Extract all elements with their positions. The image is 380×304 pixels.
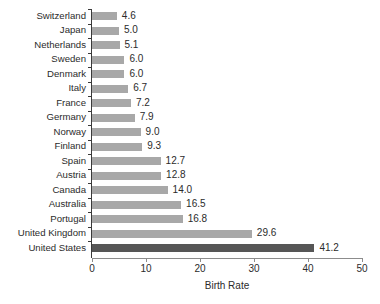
bar-row: Japan5.0 [92, 24, 362, 39]
x-axis-tick [146, 258, 147, 262]
x-axis-tick-label: 10 [140, 263, 151, 275]
x-axis-tick [92, 258, 93, 262]
bar-row: Norway9.0 [92, 125, 362, 140]
bar [92, 201, 181, 209]
x-axis-title: Birth Rate [0, 280, 380, 291]
category-label: France [56, 96, 86, 111]
bar [92, 56, 124, 64]
x-axis-tick-label: 20 [194, 263, 205, 275]
bar-row: Italy6.7 [92, 82, 362, 97]
y-axis-tick [88, 183, 92, 184]
bar [92, 70, 124, 78]
bar-row: Portugal16.8 [92, 212, 362, 227]
category-label: Denmark [47, 67, 86, 82]
bar-value-label: 16.5 [186, 197, 205, 212]
bar-value-label: 9.3 [147, 139, 161, 154]
bar-value-label: 5.1 [125, 38, 139, 53]
category-label: Switzerland [36, 9, 86, 24]
y-axis-tick [88, 227, 92, 228]
bar [92, 215, 183, 223]
bar-row: United States41.2 [92, 241, 362, 256]
bar-row: Finland9.3 [92, 140, 362, 155]
bar-row: France7.2 [92, 96, 362, 111]
bar-row: Denmark6.0 [92, 67, 362, 82]
category-label: Portugal [50, 212, 86, 227]
y-axis-tick [88, 154, 92, 155]
bar-row: Australia16.5 [92, 198, 362, 213]
bar-value-label: 16.8 [188, 212, 207, 227]
bar-value-label: 14.0 [173, 183, 192, 198]
x-axis-tick-label: 50 [356, 263, 367, 275]
bar-row: Germany7.9 [92, 111, 362, 126]
y-axis-tick [88, 169, 92, 170]
bar-row: Austria12.8 [92, 169, 362, 184]
y-axis-tick [88, 140, 92, 141]
bar [92, 99, 131, 107]
bar [92, 27, 119, 35]
category-label: Spain [61, 154, 86, 169]
y-axis-tick [88, 53, 92, 54]
category-label: Sweden [51, 52, 86, 67]
bar [92, 143, 142, 151]
category-label: Netherlands [34, 38, 86, 53]
category-label: Norway [53, 125, 86, 140]
bar [92, 85, 128, 93]
x-axis-tick [308, 258, 309, 262]
category-label: Australia [49, 197, 86, 212]
bar-value-label: 9.0 [146, 125, 160, 140]
y-axis-tick [88, 38, 92, 39]
y-axis-tick [88, 96, 92, 97]
category-label: Italy [68, 81, 86, 96]
category-label: Canada [52, 183, 86, 198]
bar [92, 172, 161, 180]
x-axis-tick [254, 258, 255, 262]
bar-value-label: 6.0 [129, 67, 143, 82]
x-axis-tick-label: 30 [248, 263, 259, 275]
bar [92, 12, 117, 20]
bar [92, 230, 252, 238]
bar-value-label: 29.6 [257, 226, 276, 241]
bar [92, 41, 120, 49]
bar [92, 157, 161, 165]
bar-row: Netherlands5.1 [92, 38, 362, 53]
bar-row: Spain12.7 [92, 154, 362, 169]
bar-value-label: 5.0 [124, 23, 138, 38]
bar-row: Canada14.0 [92, 183, 362, 198]
category-label: Austria [56, 168, 86, 183]
birth-rate-bar-chart: Switzerland4.6Japan5.0Netherlands5.1Swed… [0, 0, 380, 304]
x-axis-tick-label: 40 [302, 263, 313, 275]
bar-value-label: 4.6 [122, 9, 136, 24]
bar [92, 244, 314, 252]
bar-row: United Kingdom29.6 [92, 227, 362, 242]
bar-row: Switzerland4.6 [92, 9, 362, 24]
bar [92, 186, 168, 194]
y-axis-tick [88, 198, 92, 199]
bar-row: Sweden6.0 [92, 53, 362, 68]
plot-area: Switzerland4.6Japan5.0Netherlands5.1Swed… [92, 9, 362, 258]
bar-value-label: 6.0 [129, 52, 143, 67]
y-axis-tick [88, 24, 92, 25]
x-axis-tick [200, 258, 201, 262]
y-axis-tick [88, 111, 92, 112]
y-axis-tick [88, 9, 92, 10]
bar-value-label: 7.2 [136, 96, 150, 111]
x-axis-tick [362, 258, 363, 262]
bar-value-label: 6.7 [133, 81, 147, 96]
bar-value-label: 12.8 [166, 168, 185, 183]
y-axis-tick [88, 67, 92, 68]
bar-value-label: 7.9 [140, 110, 154, 125]
x-axis-title-label: Birth Rate [205, 280, 249, 291]
bar [92, 114, 135, 122]
bar-value-label: 41.2 [319, 241, 338, 256]
y-axis-tick [88, 241, 92, 242]
bar-value-label: 12.7 [166, 154, 185, 169]
bar [92, 128, 141, 136]
x-axis-tick-label: 0 [89, 263, 95, 275]
category-label: Finland [55, 139, 86, 154]
category-label: United Kingdom [18, 226, 86, 241]
y-axis-tick [88, 212, 92, 213]
category-label: Germany [47, 110, 86, 125]
category-label: Japan [60, 23, 86, 38]
y-axis-tick [88, 125, 92, 126]
y-axis-tick [88, 82, 92, 83]
